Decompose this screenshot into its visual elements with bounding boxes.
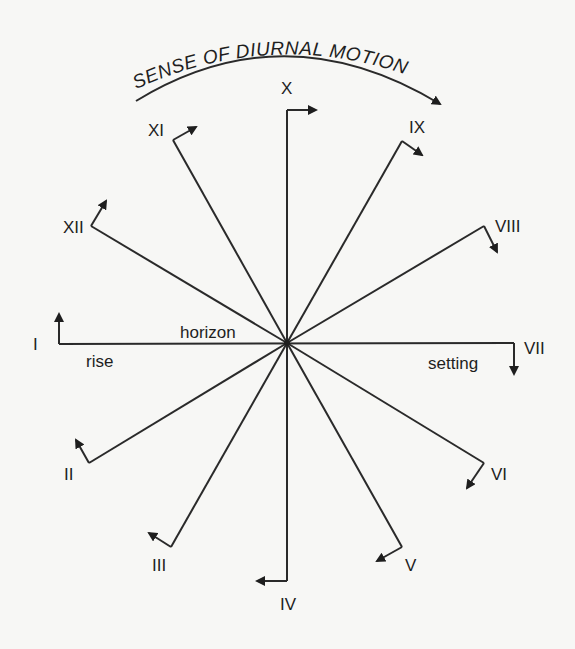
arrow-icon-xii bbox=[91, 201, 106, 226]
hour-label-xi: XI bbox=[148, 121, 164, 140]
hour-label-xii: XII bbox=[63, 218, 84, 237]
hour-label-i: I bbox=[33, 335, 38, 354]
arrow-icon-v bbox=[377, 547, 402, 561]
center-point bbox=[284, 340, 290, 346]
hour-ray-xi bbox=[173, 140, 287, 343]
arrow-icon-ix bbox=[402, 141, 422, 155]
arrow-icon-vi bbox=[467, 463, 484, 488]
hour-ray-ix bbox=[287, 141, 402, 343]
hour-ray-iii bbox=[171, 343, 287, 547]
hour-label-v: V bbox=[405, 556, 417, 575]
hour-ray-viii bbox=[287, 226, 484, 343]
hour-label-x: X bbox=[281, 79, 292, 98]
hour-label-viii: VIII bbox=[495, 217, 521, 236]
hour-ray-ii bbox=[89, 343, 287, 463]
arrow-icon-xi bbox=[173, 127, 196, 140]
setting-label: setting bbox=[428, 354, 478, 373]
diurnal-motion-diagram: SENSE OF DIURNAL MOTION IIIIIIIVVVIVIIVI… bbox=[0, 0, 575, 649]
diagram-svg: SENSE OF DIURNAL MOTION IIIIIIIVVVIVIIVI… bbox=[0, 0, 575, 649]
horizon-label: horizon bbox=[180, 323, 236, 342]
diurnal-motion-title: SENSE OF DIURNAL MOTION bbox=[129, 37, 411, 92]
hour-label-iv: IV bbox=[280, 595, 297, 614]
rise-label: rise bbox=[86, 352, 113, 371]
arrow-icon-ii bbox=[76, 440, 89, 463]
hour-label-iii: III bbox=[152, 556, 166, 575]
hour-label-ix: IX bbox=[409, 118, 425, 137]
hour-label-vii: VII bbox=[524, 339, 545, 358]
hour-label-vi: VI bbox=[491, 465, 507, 484]
arrow-icon-iii bbox=[149, 533, 171, 547]
hour-ray-v bbox=[287, 343, 402, 547]
hour-label-ii: II bbox=[64, 465, 73, 484]
